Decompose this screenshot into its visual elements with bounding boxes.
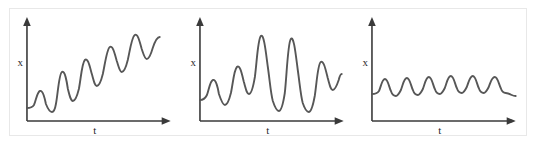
- y-axis-arrowhead: [23, 17, 31, 26]
- panel-growing-amplitude: x t: [9, 8, 182, 136]
- y-axis-arrowhead: [369, 17, 377, 26]
- figure-container: x t x t x: [0, 0, 536, 144]
- y-axis-label: x: [190, 56, 196, 68]
- x-axis-arrowhead: [507, 117, 516, 125]
- y-axis-label: x: [363, 56, 369, 68]
- x-axis-arrowhead: [162, 117, 171, 125]
- y-axis-label: x: [17, 56, 23, 68]
- waveform-curve: [372, 76, 516, 96]
- panel-1-plot: x t: [9, 8, 182, 136]
- panel-row: x t x t x: [9, 8, 527, 136]
- waveform-curve: [27, 35, 160, 112]
- y-axis-arrowhead: [196, 17, 204, 26]
- panel-swell-and-decay: x t: [182, 8, 355, 136]
- x-axis-label: t: [266, 124, 269, 136]
- panel-2-plot: x t: [182, 8, 355, 136]
- x-axis-arrowhead: [334, 117, 343, 125]
- waveform-curve: [200, 36, 342, 112]
- x-axis-label: t: [93, 124, 96, 136]
- panel-uniform-small: x t: [354, 8, 527, 136]
- panel-3-plot: x t: [354, 8, 527, 136]
- x-axis-label: t: [439, 124, 442, 136]
